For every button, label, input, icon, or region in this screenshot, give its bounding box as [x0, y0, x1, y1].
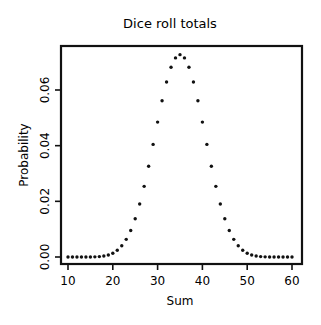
data-point: [147, 164, 150, 167]
y-tick-label: 0.06: [38, 77, 52, 104]
data-point: [196, 99, 199, 102]
data-point: [259, 255, 262, 258]
data-point: [80, 255, 83, 258]
data-point: [102, 254, 105, 257]
data-point: [75, 255, 78, 258]
plot-frame: [61, 46, 302, 264]
data-point: [125, 238, 128, 241]
x-tick-label: 50: [240, 274, 255, 288]
y-axis-label: Probability: [17, 123, 31, 186]
data-point: [111, 252, 114, 255]
data-point: [129, 229, 132, 232]
data-point: [169, 66, 172, 69]
data-point: [219, 202, 222, 205]
data-point: [286, 255, 289, 258]
data-point: [66, 255, 69, 258]
data-point: [290, 255, 293, 258]
data-point: [205, 143, 208, 146]
data-point: [277, 255, 280, 258]
data-point: [71, 255, 74, 258]
x-axis: 102030405060: [60, 264, 299, 288]
data-point: [241, 249, 244, 252]
x-tick-label: 40: [195, 274, 210, 288]
x-axis-label: Sum: [167, 294, 194, 308]
data-point: [223, 217, 226, 220]
y-tick-label: 0.02: [38, 188, 52, 215]
data-point: [84, 255, 87, 258]
data-point: [116, 249, 119, 252]
x-tick-label: 30: [150, 274, 165, 288]
dice-roll-chart: Dice roll totals 102030405060 0.000.020.…: [0, 0, 321, 325]
data-point: [138, 202, 141, 205]
data-point: [187, 66, 190, 69]
x-tick-label: 20: [105, 274, 120, 288]
data-point: [98, 255, 101, 258]
data-point: [250, 253, 253, 256]
y-axis: 0.000.020.040.06: [38, 77, 61, 271]
data-point: [160, 99, 163, 102]
data-point: [214, 185, 217, 188]
data-point: [201, 120, 204, 123]
data-point: [237, 244, 240, 247]
data-point: [254, 254, 257, 257]
data-point: [165, 80, 168, 83]
data-point: [156, 120, 159, 123]
data-point: [210, 164, 213, 167]
data-point: [93, 255, 96, 258]
data-point: [151, 143, 154, 146]
data-point: [142, 185, 145, 188]
data-point: [178, 53, 181, 56]
data-point: [120, 244, 123, 247]
data-point: [174, 56, 177, 59]
y-tick-label: 0.00: [38, 244, 52, 271]
data-point: [232, 238, 235, 241]
data-point: [134, 217, 137, 220]
data-point: [228, 229, 231, 232]
x-tick-label: 60: [284, 274, 299, 288]
data-points: [66, 53, 293, 259]
data-point: [246, 252, 249, 255]
data-point: [89, 255, 92, 258]
data-point: [183, 56, 186, 59]
data-point: [281, 255, 284, 258]
data-point: [268, 255, 271, 258]
x-tick-label: 10: [60, 274, 75, 288]
data-point: [263, 255, 266, 258]
data-point: [272, 255, 275, 258]
data-point: [107, 253, 110, 256]
chart-title: Dice roll totals: [123, 16, 217, 31]
data-point: [192, 80, 195, 83]
y-tick-label: 0.04: [38, 132, 52, 159]
